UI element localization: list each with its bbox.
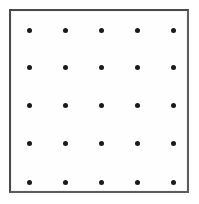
grid-frame-rectangle: [9, 9, 189, 193]
figure-canvas: [0, 0, 199, 204]
